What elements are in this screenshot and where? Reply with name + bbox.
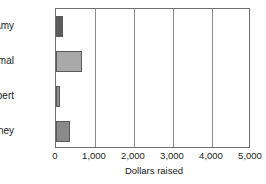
- category-label: Courtney: [0, 126, 14, 136]
- bar: [56, 86, 60, 107]
- gridline: [134, 9, 135, 147]
- plot-area: [55, 8, 250, 148]
- bar: [56, 16, 63, 37]
- bar-chart: AmyJamalRobertCourtney 01,0002,0003,0004…: [0, 0, 266, 184]
- x-tick-label: 5,000: [220, 151, 266, 161]
- category-label: Robert: [0, 91, 14, 101]
- bar: [56, 121, 70, 142]
- x-axis-title: Dollars raised: [0, 166, 266, 176]
- gridline: [95, 9, 96, 147]
- bar: [56, 51, 82, 72]
- category-label: Jamal: [0, 56, 14, 66]
- gridline: [212, 9, 213, 147]
- category-label: Amy: [0, 21, 14, 31]
- gridline: [173, 9, 174, 147]
